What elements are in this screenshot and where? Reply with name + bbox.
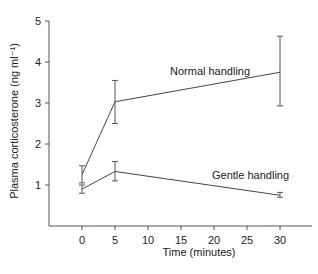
x-tick-label: 20 [208, 234, 220, 246]
x-tick-label: 15 [175, 234, 187, 246]
series-label: Gentle handling [212, 169, 289, 181]
series-label: Normal handling [170, 65, 250, 77]
y-tick-label: 2 [35, 138, 41, 150]
y-tick-label: 4 [35, 56, 41, 68]
series-gentle-handling: Gentle handling [79, 162, 289, 198]
x-tick-label: 0 [79, 234, 85, 246]
x-tick-label: 5 [112, 234, 118, 246]
y-tick-label: 3 [35, 97, 41, 109]
x-tick-label: 10 [142, 234, 154, 246]
series-normal-handling: Normal handling [79, 36, 283, 183]
series-line [82, 72, 280, 175]
y-tick-label: 5 [35, 15, 41, 27]
y-tick-label: 1 [35, 179, 41, 191]
x-tick-label: 30 [274, 234, 286, 246]
x-axis-label: Time (minutes) [163, 246, 236, 258]
y-axis-label: Plasma corticosterone (ng ml⁻¹) [8, 43, 20, 199]
line-chart: 12345 051015202530 Normal handlingGentle… [0, 0, 318, 274]
series-layer: Normal handlingGentle handling [79, 36, 289, 197]
x-tick-label: 25 [241, 234, 253, 246]
y-axis: 12345 [35, 15, 49, 226]
x-axis: 051015202530 [49, 226, 312, 246]
